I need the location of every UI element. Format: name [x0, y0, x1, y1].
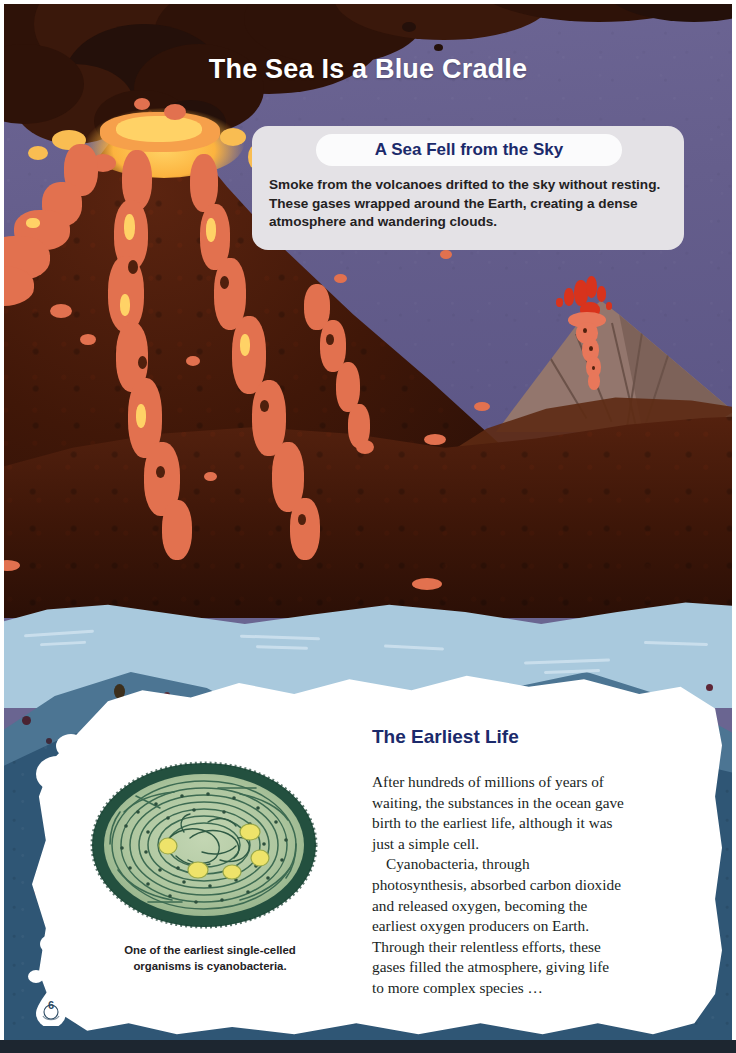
distant-volcano-lava	[550, 280, 632, 396]
callout-box: A Sea Fell from the Sky Smoke from the v…	[252, 126, 684, 250]
body-paragraph-1: After hundreds of millions of years of w…	[372, 772, 624, 854]
callout-body: Smoke from the volcanoes drifted to the …	[269, 176, 669, 232]
book-page: The Sea Is a Blue Cradle A Sea Fell from…	[0, 0, 736, 1053]
section-body: After hundreds of millions of years of w…	[372, 772, 624, 999]
page-bottom-edge	[0, 1040, 736, 1053]
callout-heading-pill: A Sea Fell from the Sky	[316, 134, 622, 166]
page-number: 6	[34, 999, 68, 1011]
callout-heading: A Sea Fell from the Sky	[316, 134, 622, 166]
page-illustration: The Sea Is a Blue Cradle A Sea Fell from…	[4, 4, 732, 1040]
figure-caption: One of the earliest single-celled organi…	[96, 942, 324, 974]
page-number-badge: 6	[34, 986, 68, 1026]
cyanobacteria-cell-diagram	[90, 760, 318, 930]
section-heading: The Earliest Life	[372, 726, 519, 748]
page-title: The Sea Is a Blue Cradle	[4, 54, 732, 85]
body-paragraph-2: Cyanobacteria, through photosynthesis, a…	[372, 854, 624, 998]
